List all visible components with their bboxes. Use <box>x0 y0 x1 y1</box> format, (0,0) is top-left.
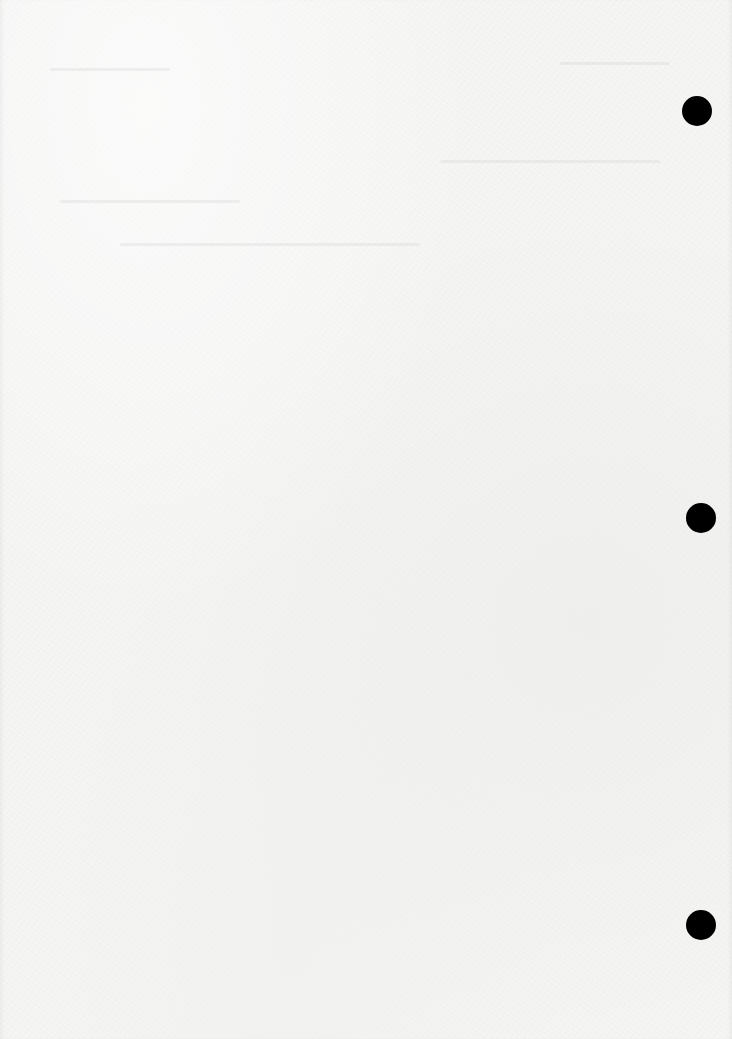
punch-hole-middle <box>686 503 716 533</box>
bleed-through-mark <box>60 200 240 203</box>
punch-hole-top <box>682 96 712 126</box>
punch-hole-bottom <box>686 910 716 940</box>
bleed-through-mark <box>560 62 670 65</box>
scanned-page <box>0 0 732 1039</box>
bleed-through-mark <box>50 68 170 71</box>
bleed-through-mark <box>440 160 660 163</box>
bleed-through-mark <box>120 243 420 246</box>
